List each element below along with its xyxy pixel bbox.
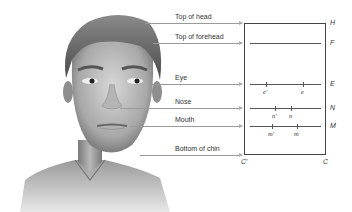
label-top-of-head: Top of head xyxy=(175,13,212,20)
tick-label-e-prime: e' xyxy=(263,88,267,95)
guide-line-chin xyxy=(140,155,242,156)
letter-f: F xyxy=(330,39,334,46)
tick-label-n-prime: n' xyxy=(272,112,277,119)
guide-line-nose xyxy=(120,108,242,109)
label-mouth: Mouth xyxy=(175,116,194,123)
tick-m xyxy=(297,124,298,129)
letter-h: H xyxy=(330,19,335,26)
guide-line-head xyxy=(145,23,242,24)
arrow-icon xyxy=(239,21,243,25)
guide-line-eye xyxy=(150,84,242,85)
corner-label-c-prime: C' xyxy=(241,158,247,165)
tick-e xyxy=(303,82,304,87)
tick-n xyxy=(291,106,292,111)
label-nose: Nose xyxy=(175,98,191,105)
arrow-icon xyxy=(239,153,243,157)
head-illustration xyxy=(0,0,180,212)
letter-m: M xyxy=(330,122,336,129)
tick-label-m-prime: m' xyxy=(268,130,274,137)
eye-line xyxy=(250,84,321,85)
corner-label-c: C xyxy=(323,158,328,165)
mouth-line xyxy=(250,126,321,127)
guide-line-mouth xyxy=(130,126,242,127)
label-bottom-of-chin: Bottom of chin xyxy=(175,145,220,152)
nose-line xyxy=(250,108,321,109)
forehead-line xyxy=(250,43,321,44)
arrow-icon xyxy=(239,106,243,110)
label-eye: Eye xyxy=(175,74,187,81)
tick-n-prime xyxy=(275,106,276,111)
arrow-icon xyxy=(239,124,243,128)
tick-m-prime xyxy=(272,124,273,129)
tick-e-prime xyxy=(266,82,267,87)
guide-line-forehead xyxy=(153,43,242,44)
letter-e: E xyxy=(330,80,335,87)
label-top-of-forehead: Top of forehead xyxy=(175,33,224,40)
letter-n: N xyxy=(330,104,335,111)
tick-label-m: m xyxy=(294,130,299,137)
tick-label-e: e xyxy=(301,88,304,95)
arrow-icon xyxy=(239,41,243,45)
tick-label-n: n xyxy=(289,112,292,119)
arrow-icon xyxy=(239,82,243,86)
